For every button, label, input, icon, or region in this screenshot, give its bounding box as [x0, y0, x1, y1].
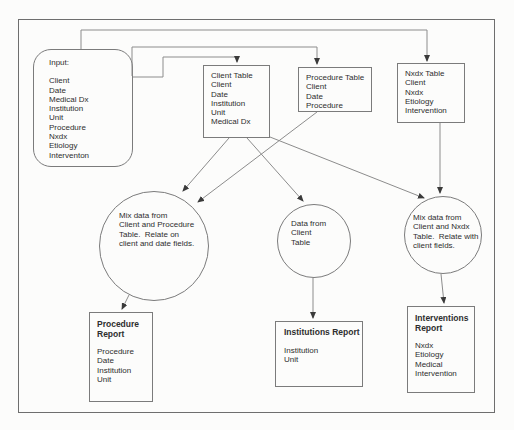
input-item: Etiology: [49, 141, 132, 150]
input-title: Input:: [49, 58, 132, 67]
process-data-from-client: Data from Client Table: [277, 204, 351, 278]
procedure-report-item: Procedure: [97, 347, 152, 356]
input-item: Nxdx: [49, 132, 132, 141]
procedure-report-title: Procedure Report: [97, 320, 152, 339]
process-text-line: client fields.: [413, 241, 481, 250]
process-text: Mix data from Client and Nxdx Table. Rel…: [405, 197, 481, 250]
procedure-table-line: Client: [306, 82, 371, 91]
process-text-line: Mix data from: [119, 211, 208, 220]
interventions-report-title: Interventions Report: [415, 314, 474, 333]
procedure-table-line: Procedure: [306, 101, 371, 110]
nxdx-table-line: Etiology: [405, 97, 464, 106]
nxdx-table-line: Nxdx Table: [405, 69, 464, 78]
procedure-report-item: Unit: [97, 375, 152, 384]
process-text-line: Client and Procedure: [119, 220, 208, 229]
flow-diagram-canvas: Input: Client Date Medical Dx Institutio…: [0, 0, 514, 430]
process-text-line: Table. Relate on: [119, 230, 208, 239]
process-text-line: Data from: [291, 219, 350, 228]
institutions-report-node: Institutions Report Institution Unit: [275, 321, 363, 387]
procedure-report-body: Procedure Report Procedure Date Institut…: [90, 313, 152, 384]
procedure-report-item: Institution: [97, 366, 152, 375]
nxdx-table-line: Nxdx: [405, 88, 464, 97]
nxdx-table-line: Client: [405, 78, 464, 87]
client-table-line: Unit: [211, 108, 269, 117]
institutions-report-item: Institution: [284, 346, 362, 355]
institutions-report-body: Institutions Report Institution Unit: [276, 322, 362, 364]
interventions-report-item: Medical: [415, 360, 474, 369]
client-table-line: Institution: [211, 99, 269, 108]
input-item: Interventon: [49, 151, 132, 160]
interventions-report-item: Nxdx: [415, 341, 474, 350]
input-item: Date: [49, 86, 132, 95]
client-table-body: Client Table Client Date Institution Uni…: [204, 66, 269, 127]
nxdx-table-body: Nxdx Table Client Nxdx Etiology Interven…: [398, 64, 464, 115]
procedure-report-node: Procedure Report Procedure Date Institut…: [89, 312, 153, 402]
nxdx-table-line: Intervention: [405, 106, 464, 115]
procedure-table-line: Procedure Table: [306, 73, 371, 82]
process-text-line: Mix data from: [413, 213, 481, 222]
input-node-body: Input: Client Date Medical Dx Institutio…: [34, 50, 132, 160]
process-mix-client-nxdx: Mix data from Client and Nxdx Table. Rel…: [404, 196, 482, 274]
input-item: Institution: [49, 104, 132, 113]
process-text: Data from Client Table: [278, 205, 350, 247]
client-table-line: Medical Dx: [211, 117, 269, 126]
process-text: Mix data from Client and Procedure Table…: [100, 192, 208, 248]
interventions-report-node: Interventions Report Nxdx Etiology Medic…: [407, 306, 475, 393]
nxdx-table-node: Nxdx Table Client Nxdx Etiology Interven…: [397, 63, 465, 123]
interventions-report-item: Intervention: [415, 369, 474, 378]
procedure-report-item: Date: [97, 356, 152, 365]
input-item: Unit: [49, 113, 132, 122]
input-item: Medical Dx: [49, 95, 132, 104]
client-table-line: Client: [211, 80, 269, 89]
procedure-table-body: Procedure Table Client Date Procedure: [299, 68, 371, 110]
process-text-line: Client and Nxdx: [413, 222, 481, 231]
process-text-line: client and date fields.: [119, 239, 208, 248]
client-table-line: Client Table: [211, 71, 269, 80]
institutions-report-item: Unit: [284, 355, 362, 364]
process-mix-client-procedure: Mix data from Client and Procedure Table…: [99, 191, 209, 301]
input-item: Procedure: [49, 123, 132, 132]
interventions-report-item: Etiology: [415, 350, 474, 359]
process-text-line: Table: [291, 238, 350, 247]
process-text-line: Table. Relate with: [413, 232, 481, 241]
input-item: Client: [49, 76, 132, 85]
institutions-report-title: Institutions Report: [284, 328, 362, 338]
process-text-line: Client: [291, 228, 350, 237]
interventions-report-body: Interventions Report Nxdx Etiology Medic…: [408, 307, 474, 378]
procedure-table-line: Date: [306, 92, 371, 101]
input-node: Input: Client Date Medical Dx Institutio…: [33, 49, 133, 167]
client-table-line: Date: [211, 90, 269, 99]
client-table-node: Client Table Client Date Institution Uni…: [203, 65, 270, 138]
procedure-table-node: Procedure Table Client Date Procedure: [298, 67, 372, 112]
